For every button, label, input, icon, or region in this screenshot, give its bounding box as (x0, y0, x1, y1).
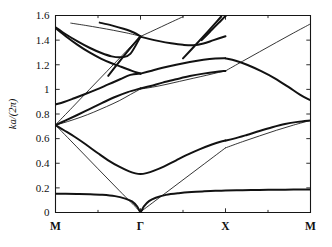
band-curve-band-2b-X-to-M (226, 120, 311, 140)
x-tick-label: M (50, 220, 61, 232)
y-tick-label: 0.4 (36, 157, 50, 169)
y-axis-title-group: ka/(2π) (7, 98, 19, 129)
x-axis-tick-labels: MΓXM (50, 220, 316, 232)
y-tick-label: 1.4 (36, 34, 50, 46)
y-axis-title: ka/(2π) (7, 98, 19, 129)
x-tick-label: M (305, 220, 316, 232)
band-curve-band-18-near-X-steep-up (183, 16, 221, 58)
band-curve-band-6-left-0p88-rise (56, 74, 141, 105)
y-tick-label: 0.2 (36, 182, 50, 194)
band-curve-band-15-Gamma-1p43-to-X-dip (141, 36, 226, 45)
band-curve-band-17-X-1p25-to-top-right (202, 3, 245, 40)
band-curve-band-7b-Gamma-1p0-secondary (141, 71, 226, 89)
figure-container: 00.20.40.60.811.21.41.6 MΓXM ka/(2π) (0, 0, 332, 247)
y-tick-label: 1 (44, 83, 50, 95)
y-axis-tick-labels: 00.20.40.60.811.21.41.6 (36, 9, 50, 218)
x-tick-label: Γ (137, 220, 144, 232)
y-tick-label: 0 (44, 206, 50, 218)
y-tick-label: 0.8 (36, 108, 50, 120)
x-tick-label: X (221, 220, 230, 232)
band-curve-band-13-top-flat-left (71, 23, 141, 36)
band-curve-band-8-X-to-M-descend (226, 58, 311, 100)
band-structure-chart: 00.20.40.60.811.21.41.6 MΓXM ka/(2π) (0, 0, 332, 247)
band-curve-band-1-acoustic-lower (56, 189, 311, 211)
band-curve-band-4-M-up-to-Gamma-one (56, 88, 141, 125)
band-curves-group (56, 3, 311, 212)
band-curve-band-3-straight-M-to-Gamma (56, 125, 141, 212)
band-curve-band-3c-X-to-M-upper (226, 120, 311, 147)
y-tick-label: 1.2 (36, 59, 50, 71)
band-curve-band-16-Gamma-1p43-rise-out (141, 17, 184, 37)
band-curve-band-9-X-to-M-straight-up (226, 24, 311, 71)
y-tick-label: 0.6 (36, 132, 50, 144)
y-tick-label: 1.6 (36, 9, 50, 21)
